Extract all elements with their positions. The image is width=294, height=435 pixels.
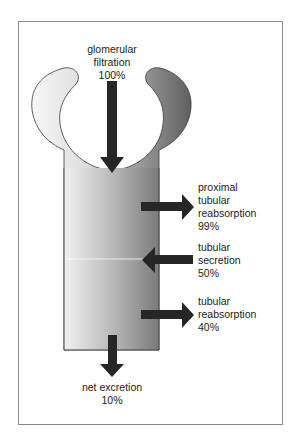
svg-text:secretion: secretion: [198, 254, 241, 266]
svg-text:proximal: proximal: [198, 181, 238, 193]
svg-text:reabsorption: reabsorption: [198, 308, 257, 320]
svg-text:100%: 100%: [99, 69, 126, 81]
svg-text:10%: 10%: [101, 394, 122, 406]
svg-text:tubular: tubular: [198, 295, 231, 307]
nephron-diagram: glomerular filtration 100% proximal tubu…: [0, 0, 294, 435]
svg-text:glomerular: glomerular: [87, 43, 137, 55]
svg-text:reabsorption: reabsorption: [198, 207, 257, 219]
svg-text:99%: 99%: [198, 220, 219, 232]
svg-text:tubular: tubular: [198, 194, 231, 206]
svg-text:filtration: filtration: [94, 56, 131, 68]
svg-text:net excretion: net excretion: [82, 381, 142, 393]
svg-text:50%: 50%: [198, 267, 219, 279]
svg-text:40%: 40%: [198, 321, 219, 333]
svg-text:tubular: tubular: [198, 241, 231, 253]
